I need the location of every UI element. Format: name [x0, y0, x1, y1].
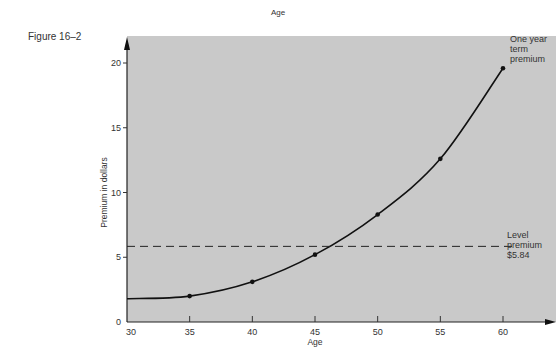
y-axis-label: Premium in dollars — [99, 157, 109, 227]
y-tick-label: 20 — [111, 58, 121, 68]
data-point-marker — [375, 212, 380, 217]
term-premium-annotation: One year — [510, 34, 547, 44]
data-point-marker — [438, 157, 443, 162]
data-point-marker — [501, 66, 506, 71]
level-premium-annotation: $5.84 — [507, 250, 530, 260]
plot-background — [127, 36, 556, 322]
x-axis-label: Age — [307, 337, 322, 347]
x-tick-label: 30 — [126, 327, 136, 337]
x-tick-label: 55 — [435, 327, 445, 337]
data-point-marker — [187, 294, 192, 299]
y-tick-label: 15 — [111, 123, 121, 133]
x-tick-label: 45 — [310, 327, 320, 337]
data-point-marker — [313, 252, 318, 257]
x-tick-label: 60 — [498, 327, 508, 337]
data-point-marker — [250, 280, 255, 285]
y-tick-label: 10 — [111, 188, 121, 198]
term-premium-annotation: term — [510, 44, 528, 54]
level-premium-annotation: Level — [507, 230, 529, 240]
premium-chart: 3035404550556005101520AgePremium in doll… — [0, 0, 556, 349]
y-tick-label: 0 — [116, 317, 121, 327]
level-premium-annotation: premium — [507, 240, 542, 250]
x-tick-label: 50 — [373, 327, 383, 337]
x-tick-label: 35 — [185, 327, 195, 337]
x-tick-label: 40 — [247, 327, 257, 337]
y-tick-label: 5 — [116, 252, 121, 262]
term-premium-annotation: premium — [510, 54, 545, 64]
